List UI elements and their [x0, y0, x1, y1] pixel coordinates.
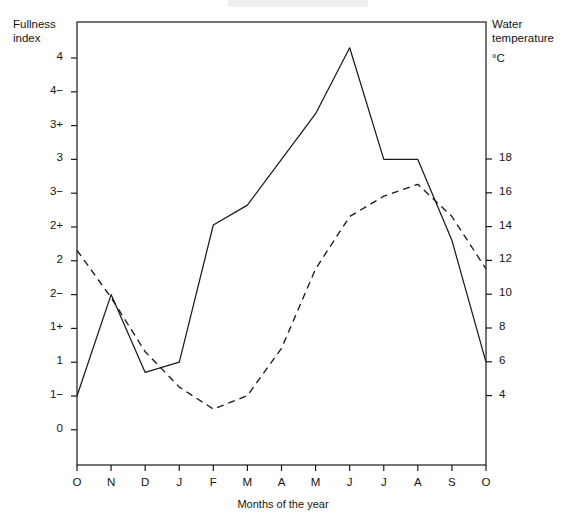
left-tick-label-3: 3	[29, 151, 63, 163]
chart-figure: Fullness index Water temperature °C Mont…	[0, 0, 566, 525]
x-tick-label-8: J	[338, 476, 362, 488]
plot-area	[0, 0, 566, 525]
left-tick-label-1−: 1−	[29, 388, 63, 400]
x-tick-label-4: F	[201, 476, 225, 488]
x-tick-label-0: O	[65, 476, 89, 488]
left-tick-label-4: 4	[29, 50, 63, 62]
series-fullness-index-line	[77, 48, 486, 396]
right-tick-label-14: 14	[499, 219, 529, 231]
x-tick-label-1: N	[99, 476, 123, 488]
left-tick-label-3−: 3−	[29, 185, 63, 197]
plot-frame	[77, 22, 486, 465]
right-tick-label-12: 12	[499, 252, 529, 264]
left-tick-label-2+: 2+	[29, 219, 63, 231]
left-tick-label-1: 1	[29, 354, 63, 366]
x-tick-label-7: M	[304, 476, 328, 488]
left-tick-label-0: 0	[29, 422, 63, 434]
x-tick-label-5: M	[235, 476, 259, 488]
x-tick-label-3: J	[167, 476, 191, 488]
x-tick-label-11: S	[440, 476, 464, 488]
x-tick-label-6: A	[270, 476, 294, 488]
series-water-temperature-line	[77, 184, 486, 409]
left-tick-label-2: 2	[29, 253, 63, 265]
right-tick-label-10: 10	[499, 286, 529, 298]
right-tick-label-18: 18	[499, 151, 529, 163]
right-axis-ticks	[486, 159, 492, 396]
x-tick-label-9: J	[372, 476, 396, 488]
x-tick-label-2: D	[133, 476, 157, 488]
right-tick-label-16: 16	[499, 185, 529, 197]
left-tick-label-3+: 3+	[29, 118, 63, 130]
right-tick-label-4: 4	[499, 388, 529, 400]
right-tick-label-8: 8	[499, 320, 529, 332]
x-tick-label-12: O	[474, 476, 498, 488]
left-tick-label-4−: 4−	[29, 84, 63, 96]
left-axis-ticks	[71, 58, 77, 430]
left-tick-label-1+: 1+	[29, 320, 63, 332]
right-tick-label-6: 6	[499, 354, 529, 366]
x-axis-ticks	[77, 465, 486, 471]
left-tick-label-2−: 2−	[29, 287, 63, 299]
x-tick-label-10: A	[406, 476, 430, 488]
